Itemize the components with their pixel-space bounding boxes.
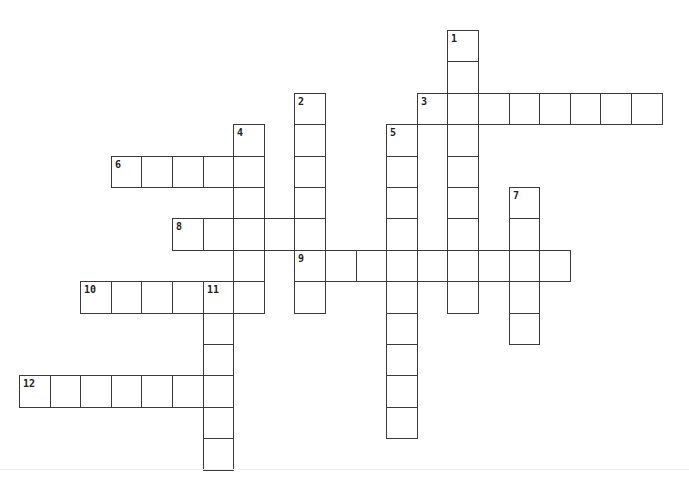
crossword-cell[interactable]	[233, 250, 265, 282]
crossword-cell[interactable]	[203, 156, 234, 188]
crossword-cell[interactable]	[203, 313, 234, 345]
crossword-cell[interactable]	[386, 281, 418, 314]
crossword-cell[interactable]	[447, 93, 479, 125]
crossword-cell[interactable]	[509, 93, 540, 125]
crossword-cell[interactable]	[631, 93, 663, 125]
crossword-cell[interactable]	[264, 218, 295, 251]
clue-number: 5	[390, 127, 396, 138]
crossword-cell[interactable]	[294, 187, 326, 219]
crossword-cell[interactable]	[447, 281, 479, 314]
crossword-cell[interactable]	[386, 407, 418, 439]
clue-number: 1	[451, 33, 457, 44]
clue-number: 11	[207, 284, 219, 295]
crossword-cell[interactable]	[447, 61, 479, 94]
crossword-cell[interactable]: 5	[386, 124, 418, 157]
crossword-cell[interactable]	[111, 281, 142, 314]
crossword-cell[interactable]: 8	[172, 218, 204, 251]
crossword-cell[interactable]	[141, 281, 173, 314]
clue-number: 4	[237, 127, 243, 138]
crossword-cell[interactable]	[539, 93, 571, 125]
crossword-cell[interactable]	[203, 344, 234, 376]
crossword-cell[interactable]	[447, 218, 479, 251]
crossword-cell[interactable]: 9	[294, 250, 326, 282]
crossword-cell[interactable]	[172, 156, 204, 188]
crossword-cell[interactable]	[233, 156, 265, 188]
crossword-cell[interactable]	[203, 218, 234, 251]
crossword-cell[interactable]	[386, 344, 418, 376]
crossword-cell[interactable]	[233, 187, 265, 219]
crossword-cell[interactable]: 7	[509, 187, 540, 219]
crossword-cell[interactable]	[233, 218, 265, 251]
crossword-cell[interactable]	[386, 156, 418, 188]
clue-number: 3	[421, 96, 427, 107]
crossword-cell[interactable]: 11	[203, 281, 234, 314]
crossword-cell[interactable]	[570, 93, 601, 125]
crossword-cell[interactable]	[600, 93, 632, 125]
crossword-cell[interactable]	[111, 375, 142, 408]
crossword-cell[interactable]	[386, 250, 418, 282]
crossword-cell[interactable]	[141, 156, 173, 188]
crossword-grid: 129345678101112	[0, 0, 689, 491]
crossword-cell[interactable]	[294, 124, 326, 157]
crossword-cell[interactable]	[509, 250, 540, 282]
crossword-cell[interactable]	[386, 375, 418, 408]
crossword-cell[interactable]	[447, 124, 479, 157]
crossword-cell[interactable]	[203, 407, 234, 439]
crossword-cell[interactable]	[509, 313, 540, 345]
crossword-cell[interactable]	[509, 218, 540, 251]
crossword-cell[interactable]: 3	[417, 93, 448, 125]
crossword-cell[interactable]	[478, 93, 510, 125]
crossword-cell[interactable]	[386, 187, 418, 219]
crossword-cell[interactable]	[478, 250, 510, 282]
crossword-cell[interactable]	[233, 281, 265, 314]
crossword-cell[interactable]	[539, 250, 571, 282]
clue-number: 10	[84, 284, 96, 295]
clue-number: 2	[298, 96, 304, 107]
crossword-cell[interactable]	[172, 281, 204, 314]
crossword-cell[interactable]	[141, 375, 173, 408]
clue-number: 12	[23, 378, 35, 389]
crossword-cell[interactable]	[356, 250, 387, 282]
crossword-cell[interactable]	[50, 375, 81, 408]
crossword-cell[interactable]: 2	[294, 93, 326, 125]
clue-number: 6	[115, 159, 121, 170]
crossword-cell[interactable]	[386, 218, 418, 251]
crossword-cell[interactable]: 6	[111, 156, 142, 188]
crossword-cell[interactable]	[172, 375, 204, 408]
crossword-cell[interactable]	[294, 156, 326, 188]
crossword-cell[interactable]	[294, 281, 326, 314]
page-fold-line	[0, 469, 689, 470]
crossword-cell[interactable]: 12	[19, 375, 51, 408]
crossword-cell[interactable]: 10	[80, 281, 112, 314]
clue-number: 7	[513, 190, 519, 201]
crossword-cell[interactable]	[203, 438, 234, 471]
crossword-cell[interactable]	[509, 281, 540, 314]
crossword-cell[interactable]	[325, 250, 357, 282]
clue-number: 9	[298, 253, 304, 264]
crossword-cell[interactable]	[417, 250, 448, 282]
crossword-cell[interactable]: 1	[447, 30, 479, 62]
crossword-cell[interactable]	[80, 375, 112, 408]
crossword-cell[interactable]	[447, 250, 479, 282]
crossword-cell[interactable]	[203, 375, 234, 408]
crossword-cell[interactable]	[294, 218, 326, 251]
crossword-cell[interactable]	[386, 313, 418, 345]
clue-number: 8	[176, 221, 182, 232]
crossword-cell[interactable]: 4	[233, 124, 265, 157]
crossword-cell[interactable]	[447, 187, 479, 219]
crossword-cell[interactable]	[447, 156, 479, 188]
